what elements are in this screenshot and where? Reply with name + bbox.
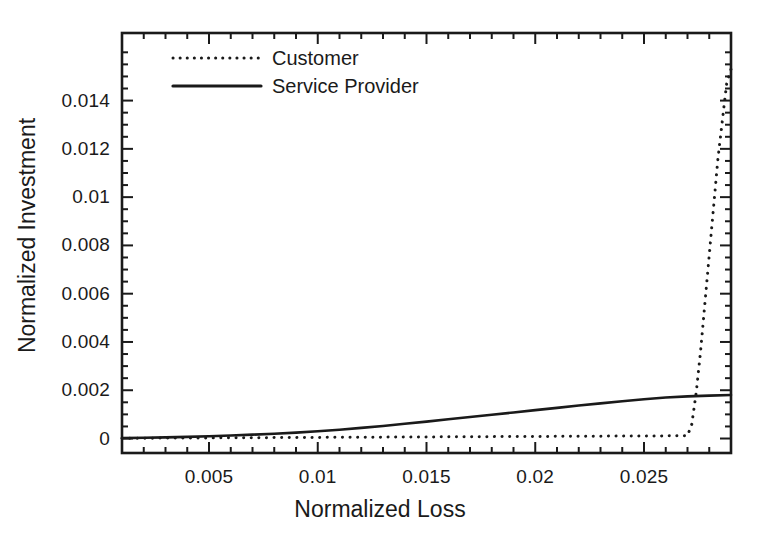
x-axis-title: Normalized Loss bbox=[0, 496, 760, 523]
legend-label: Service Provider bbox=[272, 75, 419, 98]
y-tick-label: 0.006 bbox=[48, 283, 110, 305]
y-axis-title: Normalized Investment bbox=[15, 117, 42, 352]
chart-figure: 00.0020.0040.0060.0080.010.0120.014 0.00… bbox=[0, 0, 760, 542]
y-tick-label: 0.004 bbox=[48, 331, 110, 353]
legend-label: Customer bbox=[272, 47, 359, 70]
y-axis-title-container: Normalized Investment bbox=[0, 0, 56, 470]
y-tick-label: 0.008 bbox=[48, 234, 110, 256]
y-tick-label: 0.014 bbox=[48, 90, 110, 112]
y-tick-label: 0.012 bbox=[48, 138, 110, 160]
x-tick-label: 0.025 bbox=[620, 466, 669, 488]
x-tick-label: 0.01 bbox=[299, 466, 337, 488]
x-tick-label: 0.02 bbox=[516, 466, 554, 488]
x-tick-label: 0.015 bbox=[402, 466, 451, 488]
y-tick-label: 0.002 bbox=[48, 379, 110, 401]
y-tick-label: 0.01 bbox=[48, 186, 110, 208]
x-tick-label: 0.005 bbox=[185, 466, 234, 488]
y-tick-label: 0 bbox=[48, 428, 110, 450]
